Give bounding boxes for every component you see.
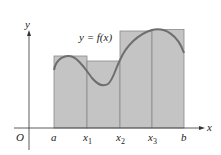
- rectangle-3: [120, 31, 152, 128]
- x-tick-labels: a x1 x2 x3 b: [51, 131, 187, 146]
- tick-label-b: b: [181, 131, 187, 143]
- tick-label-x3: x3: [147, 131, 157, 146]
- rectangles: [54, 30, 184, 129]
- y-axis-arrow-icon: [27, 30, 31, 36]
- x-axis-arrow-icon: [199, 126, 205, 130]
- function-label: y = f(x): [78, 31, 112, 44]
- y-axis-label: y: [24, 18, 30, 30]
- rectangle-1: [54, 56, 87, 128]
- x-axis-label: x: [206, 121, 212, 133]
- tick-label-x1: x1: [82, 131, 92, 146]
- riemann-sum-diagram: y x O y = f(x) a x1 x2 x3 b: [0, 0, 221, 155]
- origin-label: O: [16, 131, 24, 143]
- tick-label-a: a: [51, 131, 57, 143]
- tick-label-x2: x2: [115, 131, 125, 146]
